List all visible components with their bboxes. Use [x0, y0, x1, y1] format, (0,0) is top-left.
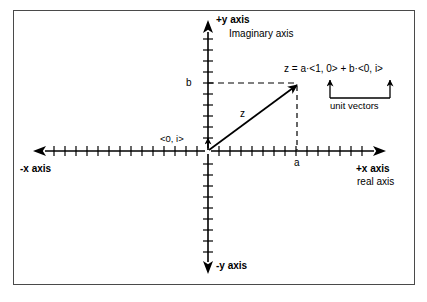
unit-vectors-callout [330, 80, 390, 98]
unit-vectors-label: unit vectors [330, 100, 379, 111]
vector-z-arrow [209, 85, 297, 150]
x-axis [45, 146, 374, 156]
complex-plane-diagram [0, 0, 427, 302]
vector-z-label: z [240, 108, 245, 119]
unit-vector-origin-label: <0, i> [160, 133, 184, 144]
figure-canvas: +y axis Imaginary axis -y axis -x axis +… [0, 0, 427, 302]
y-axis-negative-label: -y axis [216, 260, 247, 271]
x-value-label-a: a [294, 157, 300, 168]
x-axis-negative-label: -x axis [20, 163, 51, 174]
y-value-label-b: b [186, 77, 192, 88]
equation-label: z = a·<1, 0> + b·<0, i> [284, 63, 383, 74]
real-axis-label: real axis [357, 176, 394, 187]
imaginary-axis-label: Imaginary axis [229, 28, 293, 39]
y-axis-positive-label: +y axis [216, 14, 250, 25]
x-axis-positive-label: +x axis [356, 163, 390, 174]
